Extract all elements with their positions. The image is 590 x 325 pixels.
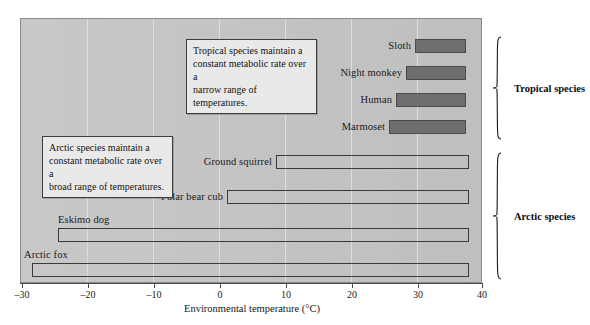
bar-eskimo-dog[interactable] [58, 228, 469, 242]
bar-label-marmoset: Marmoset [309, 120, 385, 134]
bar-label-sloth: Sloth [335, 39, 411, 53]
bar-label-arctic-fox: Arctic fox [24, 248, 144, 262]
bar-label-eskimo-dog: Eskimo dog [58, 213, 178, 227]
x-axis-title-wrap: Environmental temperature (°C) [0, 303, 590, 314]
x-tick--20 [88, 283, 89, 288]
callout-arctic: Arctic species maintain a constant metab… [42, 136, 173, 198]
x-tick-30 [418, 283, 419, 288]
bar-human[interactable] [396, 93, 466, 107]
bar-marmoset[interactable] [389, 120, 466, 134]
group-label-arctic: Arctic species [514, 211, 575, 222]
x-tick-label-20: 20 [347, 289, 357, 300]
bar-night-monkey[interactable] [406, 66, 466, 80]
callout-tropical: Tropical species maintain a constant met… [186, 39, 317, 114]
callout-arctic-line-2: constant metabolic rate over a [49, 154, 166, 180]
bar-label-human: Human [316, 93, 392, 107]
callout-tropical-line-2: constant metabolic rate over a [193, 57, 310, 83]
metabolic-rate-temperature-chart: Sloth Night monkey Human Marmoset Ground… [0, 0, 590, 325]
gridline-30 [417, 19, 418, 282]
bar-ground-squirrel[interactable] [276, 155, 469, 169]
x-tick--30 [22, 283, 23, 288]
x-axis-title: Environmental temperature (°C) [184, 303, 320, 314]
x-tick-40 [482, 283, 483, 288]
callout-tropical-line-1: Tropical species maintain a [193, 44, 310, 57]
callout-tropical-line-3: narrow range of temperatures. [193, 83, 310, 109]
x-tick-label-0: 0 [218, 289, 223, 300]
x-tick-label-30: 30 [413, 289, 423, 300]
x-tick-10 [286, 283, 287, 288]
callout-arctic-line-3: broad range of temperatures. [49, 180, 166, 193]
bar-polar-bear-cub[interactable] [227, 190, 469, 204]
x-tick-label-10: 10 [281, 289, 291, 300]
x-tick-label--10: –10 [147, 289, 162, 300]
x-tick-label--20: –20 [81, 289, 96, 300]
bar-arctic-fox[interactable] [32, 263, 469, 277]
x-axis-line [20, 283, 482, 284]
x-tick-0 [220, 283, 221, 288]
x-tick--10 [154, 283, 155, 288]
callout-arctic-line-1: Arctic species maintain a [49, 141, 166, 154]
bar-label-ground-squirrel: Ground squirrel [190, 155, 272, 169]
bracket-tropical-icon [492, 36, 504, 140]
x-tick-label--30: –30 [15, 289, 30, 300]
gridline-20 [351, 19, 352, 282]
bar-sloth[interactable] [415, 39, 466, 53]
group-label-tropical: Tropical species [514, 83, 585, 94]
x-tick-20 [352, 283, 353, 288]
x-tick-label-40: 40 [477, 289, 487, 300]
bar-label-night-monkey: Night monkey [326, 66, 402, 80]
bracket-arctic-icon [492, 152, 504, 280]
